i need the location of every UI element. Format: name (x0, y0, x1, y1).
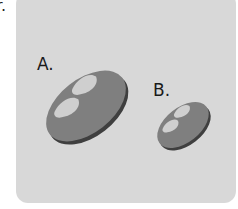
cut-off-label: r. (0, 0, 6, 14)
bread-loaf-large-icon (38, 58, 134, 154)
bread-loaf-small-icon (152, 94, 214, 156)
